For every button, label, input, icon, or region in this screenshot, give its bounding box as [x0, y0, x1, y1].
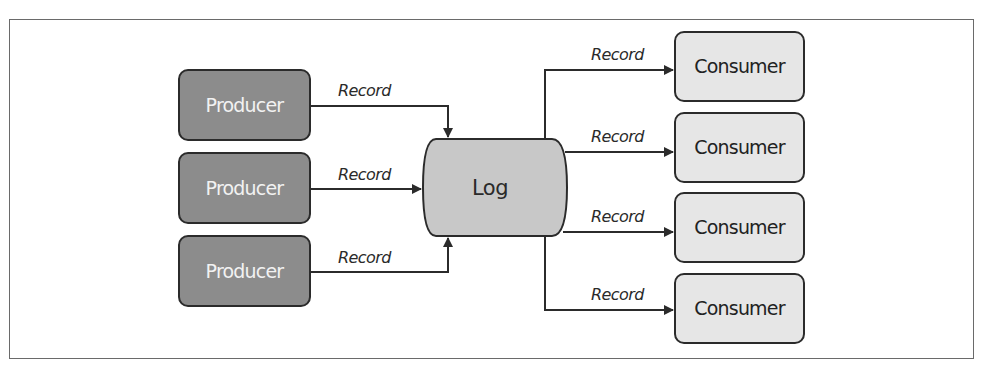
producer-edge-3: Record	[310, 238, 448, 272]
edge-label: Record	[591, 285, 645, 304]
consumer-label: Consumer	[694, 136, 785, 158]
consumer-label: Consumer	[694, 297, 785, 319]
edge-label: Record	[338, 81, 392, 100]
consumer-node-2: Consumer	[675, 113, 804, 182]
consumer-label: Consumer	[694, 216, 785, 238]
consumer-edge-3: Record	[563, 207, 673, 232]
producer-label: Producer	[206, 260, 285, 282]
consumer-edge-4: Record	[545, 236, 673, 310]
diagram-canvas: Producer Producer Producer Log Record Re…	[0, 0, 984, 367]
consumer-node-4: Consumer	[675, 274, 804, 343]
producer-edge-2: Record	[310, 165, 421, 189]
edge-label: Record	[338, 165, 392, 184]
producer-label: Producer	[206, 177, 285, 199]
producer-node-1: Producer	[179, 70, 310, 140]
edge-label: Record	[591, 127, 645, 146]
consumer-edge-2: Record	[565, 127, 673, 152]
consumer-node-3: Consumer	[675, 193, 804, 262]
edge-label: Record	[591, 45, 645, 64]
log-node: Log	[423, 139, 567, 236]
producer-node-3: Producer	[179, 236, 310, 306]
producer-edge-1: Record	[310, 81, 448, 137]
consumer-node-1: Consumer	[675, 32, 804, 101]
producer-node-2: Producer	[179, 153, 310, 223]
edge-label: Record	[338, 248, 392, 267]
producer-label: Producer	[206, 94, 285, 116]
log-label: Log	[472, 176, 508, 200]
edge-label: Record	[591, 207, 645, 226]
consumer-edge-1: Record	[545, 45, 673, 139]
consumer-label: Consumer	[694, 55, 785, 77]
